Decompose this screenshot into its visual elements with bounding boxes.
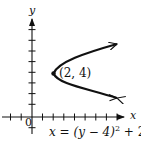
equation-main: x = (y − 4) [49, 125, 115, 139]
x-axis [2, 114, 124, 121]
vertex-label: (2, 4) [59, 66, 91, 80]
equation-tail: + 2 [120, 125, 141, 139]
vertex-point [51, 71, 55, 75]
equation-label: x = (y − 4)2 + 2 [49, 124, 141, 139]
x-axis-label: x [130, 109, 136, 122]
origin-label: 0 [25, 116, 32, 129]
y-axis-label: y [29, 4, 35, 17]
